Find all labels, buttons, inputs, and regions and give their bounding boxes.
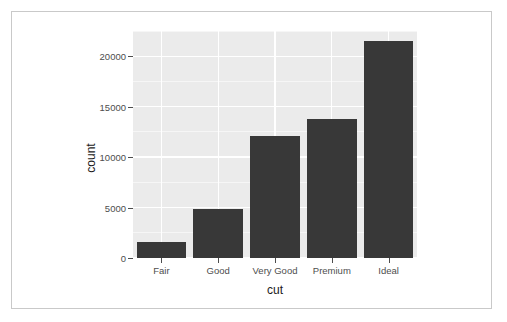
bar-good bbox=[193, 209, 243, 258]
x-axis-tick-labels: FairGoodVery GoodPremiumIdeal bbox=[133, 265, 417, 281]
chart-panel bbox=[133, 31, 417, 258]
gridline-major-x bbox=[161, 31, 162, 258]
x-tick-label: Fair bbox=[153, 265, 169, 276]
x-tick-label: Very Good bbox=[253, 265, 298, 276]
x-tick-mark bbox=[275, 258, 276, 263]
x-axis-tick-marks bbox=[133, 258, 417, 263]
y-tick-label: 20000 bbox=[82, 51, 126, 62]
x-axis-title: cut bbox=[133, 283, 417, 297]
x-tick-label: Ideal bbox=[378, 265, 399, 276]
bar-premium bbox=[307, 119, 357, 258]
y-axis-tick-labels: 05000100001500020000 bbox=[82, 0, 126, 322]
y-tick-label: 10000 bbox=[82, 152, 126, 163]
x-tick-mark bbox=[389, 258, 390, 263]
plot-area: count 05000100001500020000 FairGoodVery … bbox=[0, 0, 507, 322]
x-tick-mark bbox=[218, 258, 219, 263]
y-tick-label: 15000 bbox=[82, 102, 126, 113]
x-tick-label: Premium bbox=[313, 265, 351, 276]
x-tick-mark bbox=[161, 258, 162, 263]
bar-fair bbox=[137, 242, 187, 258]
y-tick-label: 5000 bbox=[82, 203, 126, 214]
chart-screenshot: count 05000100001500020000 FairGoodVery … bbox=[0, 0, 507, 322]
bar-very-good bbox=[250, 136, 300, 258]
x-tick-label: Good bbox=[207, 265, 230, 276]
y-tick-label: 0 bbox=[82, 253, 126, 264]
bar-ideal bbox=[364, 41, 414, 258]
x-tick-mark bbox=[332, 258, 333, 263]
